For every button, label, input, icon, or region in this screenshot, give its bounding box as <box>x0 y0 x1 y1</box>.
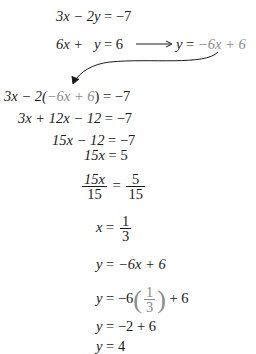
equals-sign: = <box>103 88 111 104</box>
step-isolate: 15x = 5 <box>84 147 128 163</box>
step-combine: 15x − 12 = −7 <box>52 132 135 148</box>
solved-lhs: y <box>176 36 182 52</box>
step8-lhs: y <box>96 318 102 334</box>
step-back-substitute: y = −6x + 6 <box>96 256 166 272</box>
equals-sign: = <box>106 219 114 235</box>
step7-coefficient: −6 <box>118 290 133 306</box>
equals-sign: = <box>106 290 114 306</box>
step0-lhs-a: 3x − 2( <box>4 88 47 104</box>
numerator: 5 <box>126 172 145 187</box>
eq1-lhs: 3x − 2y <box>56 8 100 24</box>
fraction-lhs: 15x 15 <box>82 172 107 201</box>
equals-sign: = <box>104 8 112 24</box>
step-substitution: 3x − 2(−6x + 6) = −7 <box>4 88 130 104</box>
eq1-rhs: −7 <box>116 8 131 24</box>
numerator: 15x <box>82 172 107 187</box>
step9-rhs: 4 <box>118 338 125 354</box>
denominator: 15 <box>126 187 145 201</box>
step6-lhs: y <box>96 256 102 272</box>
eq2-lhs: 6x + y <box>56 36 100 52</box>
denominator: 3 <box>144 300 155 314</box>
step3-rhs: 5 <box>120 147 127 163</box>
eq2-rhs: 6 <box>116 36 123 52</box>
numerator: 1 <box>120 214 131 229</box>
equals-sign: = <box>105 110 113 126</box>
step2-lhs: 15x − 12 <box>52 132 104 148</box>
step9-lhs: y <box>96 338 102 354</box>
step-expand: 3x + 12x − 12 = −7 <box>18 110 132 126</box>
step7-lhs: y <box>96 290 102 306</box>
solved-equation: y = −6x + 6 <box>176 36 246 52</box>
fraction-substituted: 1 3 <box>144 285 155 314</box>
equals-sign: = <box>106 318 114 334</box>
step8-rhs: −2 + 6 <box>118 318 156 334</box>
denominator: 3 <box>120 229 131 243</box>
numerator: 1 <box>144 285 155 300</box>
left-paren: ( <box>133 285 142 314</box>
step5-lhs: x <box>96 219 102 235</box>
denominator: 15 <box>82 187 107 201</box>
equals-sign: = <box>106 256 114 272</box>
solved-rhs: −6x + 6 <box>198 36 246 52</box>
right-paren: ) <box>157 285 166 314</box>
step1-rhs: −7 <box>117 110 132 126</box>
system-equation-1: 3x − 2y = −7 <box>56 8 131 24</box>
equals-sign: = <box>104 36 112 52</box>
equals-sign: = <box>108 132 116 148</box>
step0-substituted: −6x + 6 <box>47 88 95 104</box>
step1-lhs: 3x + 12x − 12 <box>18 110 101 126</box>
step7-constant: + 6 <box>170 290 189 306</box>
system-equation-2: 6x + y = 6 <box>56 36 123 52</box>
step3-lhs: 15x <box>84 147 105 163</box>
equals-sign: = <box>113 177 121 193</box>
step-simplify: y = −2 + 6 <box>96 318 156 334</box>
substitution-arrow-icon <box>72 52 218 84</box>
fraction-rhs: 5 15 <box>126 172 145 201</box>
step-solve-x: x = 1 3 <box>96 214 133 243</box>
step0-rhs: −7 <box>115 88 130 104</box>
equals-sign: = <box>186 36 194 52</box>
equals-sign: = <box>106 338 114 354</box>
equals-sign: = <box>109 147 117 163</box>
step-plug-x: y = −6( 1 3 ) + 6 <box>96 285 189 314</box>
step6-rhs: −6x + 6 <box>118 256 166 272</box>
fraction-x-value: 1 3 <box>120 214 131 243</box>
step-final: y = 4 <box>96 338 125 354</box>
step2-rhs: −7 <box>120 132 135 148</box>
step0-lhs-b: ) <box>95 88 100 104</box>
right-arrow-icon <box>136 41 172 47</box>
step-divide: 15x 15 = 5 15 <box>80 172 147 201</box>
